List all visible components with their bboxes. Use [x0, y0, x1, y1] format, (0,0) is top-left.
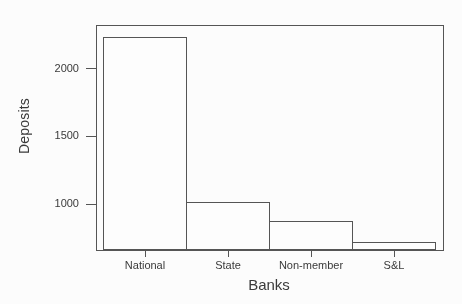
- x-tick-s-l: [394, 251, 395, 257]
- bar-s-l: [352, 242, 436, 250]
- plot-area: NationalStateNon-memberS&L100015002000: [96, 25, 444, 251]
- y-tick-label-1500: 1500: [45, 129, 79, 142]
- y-axis-title: Deposits: [16, 98, 32, 154]
- x-category-label-s-l: S&L: [384, 259, 405, 272]
- y-tick-1500: [86, 136, 97, 137]
- x-axis-title: Banks: [96, 276, 442, 293]
- x-category-label-non-member: Non-member: [279, 259, 343, 272]
- x-tick-state: [228, 251, 229, 257]
- x-category-label-national: National: [125, 259, 165, 272]
- y-tick-1000: [86, 204, 97, 205]
- x-tick-non-member: [311, 251, 312, 257]
- y-tick-2000: [86, 68, 97, 69]
- y-tick-label-1000: 1000: [45, 197, 79, 210]
- bar-state: [186, 202, 270, 250]
- x-category-label-state: State: [215, 259, 241, 272]
- y-tick-label-2000: 2000: [45, 62, 79, 75]
- deposits-bar-chart: Deposits NationalStateNon-memberS&L10001…: [0, 0, 462, 304]
- bar-non-member: [269, 221, 353, 250]
- bar-national: [103, 37, 187, 250]
- x-tick-national: [145, 251, 146, 257]
